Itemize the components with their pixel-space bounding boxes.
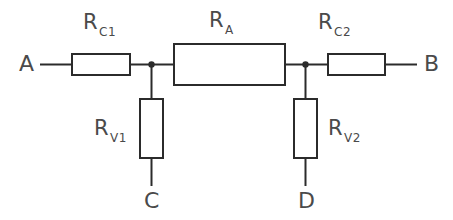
terminal-label-c: C xyxy=(144,190,159,212)
label-ra: RA xyxy=(209,10,233,33)
terminal-label-d: D xyxy=(298,190,315,212)
label-rc1-subscript: C1 xyxy=(99,25,116,39)
label-ra-subscript: A xyxy=(225,23,234,37)
label-rv1-base: R xyxy=(94,116,109,140)
label-ra-base: R xyxy=(209,8,224,32)
terminal-label-a: A xyxy=(19,53,34,75)
label-rc2-base: R xyxy=(318,10,333,34)
label-rv2-subscript: V2 xyxy=(344,131,361,145)
label-rv2-base: R xyxy=(328,116,343,140)
label-rc2: RC2 xyxy=(318,12,350,35)
terminal-label-b: B xyxy=(424,53,439,75)
resistor-rc1-body[interactable] xyxy=(72,54,130,75)
label-rc2-subscript: C2 xyxy=(334,25,351,39)
label-rv1-subscript: V1 xyxy=(110,131,127,145)
label-rc1-base: R xyxy=(83,10,98,34)
junction-dot-left xyxy=(148,61,154,67)
resistor-rc2-body[interactable] xyxy=(328,54,385,75)
resistor-ra-body[interactable] xyxy=(174,44,285,85)
label-rv2: RV2 xyxy=(328,118,360,141)
junction-dot-right xyxy=(302,61,308,67)
circuit-diagram: RC1 RA RC2 RV1 RV2 A B C D xyxy=(0,0,453,220)
label-rc1: RC1 xyxy=(83,12,115,35)
resistor-rv1-body[interactable] xyxy=(140,99,163,158)
resistor-rv2-body[interactable] xyxy=(294,99,317,158)
label-rv1: RV1 xyxy=(94,118,126,141)
